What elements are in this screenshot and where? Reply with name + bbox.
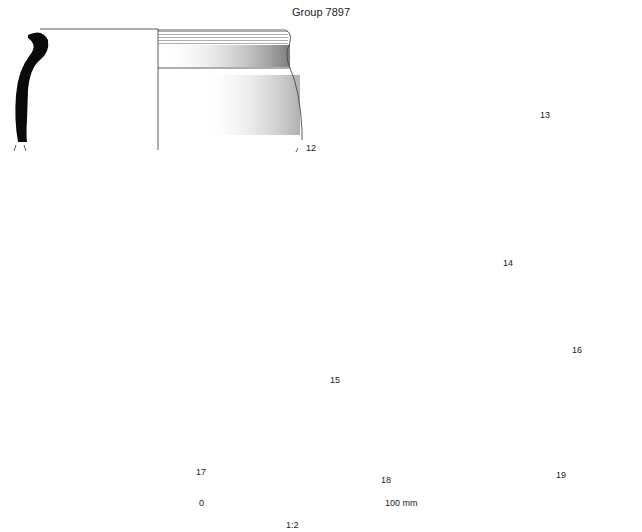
figure-label-13: 13	[540, 110, 550, 120]
scale-ratio-label: 1:2	[286, 520, 299, 530]
figure-label-17: 17	[196, 467, 206, 477]
figure-label-15: 15	[330, 375, 340, 385]
figure-12	[14, 29, 302, 152]
scale-start-label: 0	[199, 498, 204, 508]
figure-label-19: 19	[556, 470, 566, 480]
figure-label-14: 14	[503, 258, 513, 268]
scale-end-label: 100 mm	[385, 498, 418, 508]
figure-label-12: 12	[306, 143, 316, 153]
figure-label-16: 16	[572, 345, 582, 355]
figure-label-18: 18	[381, 475, 391, 485]
pottery-drawings	[0, 0, 642, 532]
